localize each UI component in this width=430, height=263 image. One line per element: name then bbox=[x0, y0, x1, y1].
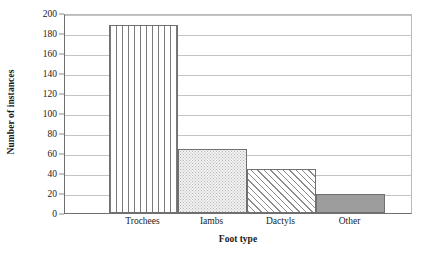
y-tick-label: 60 bbox=[48, 149, 58, 159]
x-axis-tick-labels: TrocheesIambsDactylsOther bbox=[64, 216, 412, 232]
y-tick-label: 80 bbox=[48, 129, 58, 139]
y-axis-tick-labels: 020406080100120140160180200 bbox=[22, 14, 64, 214]
bar-chart-figure: Number of instances 02040608010012014016… bbox=[0, 0, 430, 263]
y-tick-label: 20 bbox=[48, 189, 58, 199]
x-tick-label: Dactyls bbox=[266, 216, 295, 226]
bars-layer bbox=[65, 15, 411, 213]
bar-other bbox=[316, 194, 385, 213]
y-tick-label: 120 bbox=[43, 89, 57, 99]
y-axis-title: Number of instances bbox=[0, 0, 22, 224]
plot-area bbox=[64, 14, 412, 214]
bar-iambs bbox=[178, 149, 247, 213]
y-tick-label: 40 bbox=[48, 169, 58, 179]
x-axis-title: Foot type bbox=[64, 234, 412, 244]
y-tick-label: 160 bbox=[43, 49, 57, 59]
x-tick-label: Iambs bbox=[200, 216, 223, 226]
y-tick-label: 180 bbox=[43, 29, 57, 39]
x-tick-label: Trochees bbox=[125, 216, 159, 226]
y-tick-label: 100 bbox=[43, 109, 57, 119]
bar-trochees bbox=[109, 25, 178, 213]
bar-dactyls bbox=[247, 169, 316, 213]
y-tick-label: 140 bbox=[43, 69, 57, 79]
y-axis-title-text: Number of instances bbox=[6, 69, 16, 154]
x-tick-label: Other bbox=[339, 216, 361, 226]
y-tick-label: 200 bbox=[43, 9, 57, 19]
y-tick-label: 0 bbox=[52, 209, 57, 219]
